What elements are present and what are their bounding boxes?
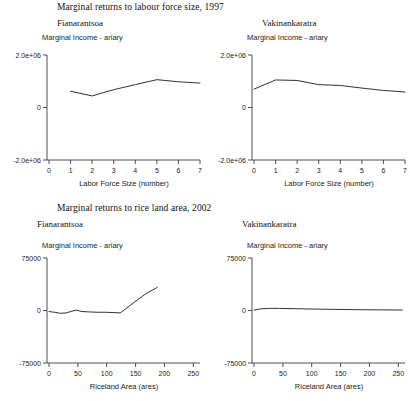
x-tick-marks bbox=[254, 363, 398, 367]
x-tick-marks bbox=[49, 160, 200, 164]
x-tick-label: 250 bbox=[187, 370, 199, 377]
x-tick-label: 7 bbox=[403, 167, 407, 174]
x-tick-label: 4 bbox=[338, 167, 342, 174]
figure-labour-force: Marginal returns to labour force size, 1… bbox=[0, 0, 410, 200]
x-tick-label: 250 bbox=[392, 370, 404, 377]
data-series-line bbox=[71, 80, 200, 96]
panel-fianarantsoa-labour: Fianarantsoa Marginal Income - ariary 2.… bbox=[0, 0, 205, 200]
x-tick-marks bbox=[49, 363, 193, 367]
x-tick-label: 50 bbox=[74, 370, 82, 377]
x-tick-label: 150 bbox=[130, 370, 142, 377]
y-tick-label: 0 bbox=[37, 307, 41, 314]
x-tick-label: 4 bbox=[133, 167, 137, 174]
y-tick-label: 0 bbox=[242, 307, 246, 314]
data-series-line bbox=[254, 80, 405, 92]
x-tick-label: 0 bbox=[252, 167, 256, 174]
x-tick-label: 2 bbox=[90, 167, 94, 174]
x-tick-label: 50 bbox=[279, 370, 287, 377]
data-series-line bbox=[254, 308, 402, 310]
x-tick-label: 0 bbox=[47, 370, 51, 377]
x-tick-label: 1 bbox=[69, 167, 73, 174]
x-axis-title: Riceland Area (ares) bbox=[90, 382, 159, 391]
x-tick-label: 200 bbox=[159, 370, 171, 377]
panel-vakinankaratra-riceland: Vakinankaratra Marginal Income - ariary … bbox=[205, 201, 410, 401]
x-tick-marks bbox=[254, 160, 405, 164]
x-tick-label: 7 bbox=[198, 167, 202, 174]
y-tick-label: 2.0e+06 bbox=[16, 52, 42, 59]
y-tick-label: 2.0e+06 bbox=[221, 52, 247, 59]
x-axis-title: Riceland Area (ares) bbox=[295, 382, 364, 391]
plot-area: 2.0e+06 0 -2.0e+06 0 1 2 3 4 5 6 7 Labor bbox=[0, 0, 205, 200]
panel-fianarantsoa-riceland: Fianarantsoa Marginal Income - ariary 75… bbox=[0, 201, 205, 401]
x-tick-label: 2 bbox=[295, 167, 299, 174]
x-tick-label: 5 bbox=[155, 167, 159, 174]
x-tick-label: 3 bbox=[112, 167, 116, 174]
x-tick-label: 6 bbox=[381, 167, 385, 174]
x-tick-label: 0 bbox=[252, 370, 256, 377]
x-tick-label: 1 bbox=[274, 167, 278, 174]
y-tick-label: -2.0e+06 bbox=[13, 157, 41, 164]
y-tick-label: 75000 bbox=[227, 255, 247, 262]
y-tick-label: -75000 bbox=[19, 360, 41, 367]
plot-area: 75000 0 -75000 0 50 100 150 200 250 Rice… bbox=[205, 201, 410, 401]
y-tick-label: 75000 bbox=[22, 255, 42, 262]
x-tick-label: 150 bbox=[335, 370, 347, 377]
x-tick-label: 200 bbox=[364, 370, 376, 377]
y-tick-label: -2.0e+06 bbox=[218, 157, 246, 164]
plot-area: 2.0e+06 0 -2.0e+06 0 1 2 3 4 5 6 7 Labor… bbox=[205, 0, 410, 200]
x-tick-label: 6 bbox=[176, 167, 180, 174]
x-axis-title: Labor Force Size (number) bbox=[284, 179, 374, 188]
y-tick-label: 0 bbox=[242, 104, 246, 111]
x-tick-label: 100 bbox=[101, 370, 113, 377]
x-axis-title: Labor Force Size (number) bbox=[79, 179, 169, 188]
data-series-line bbox=[49, 287, 157, 313]
plot-area: 75000 0 -75000 0 50 100 150 200 250 Rice… bbox=[0, 201, 205, 401]
y-tick-label: 0 bbox=[37, 104, 41, 111]
y-tick-label: -75000 bbox=[224, 360, 246, 367]
x-tick-label: 3 bbox=[317, 167, 321, 174]
x-tick-label: 0 bbox=[47, 167, 51, 174]
panel-vakinankaratra-labour: Vakinankaratra Marginal Income - ariary … bbox=[205, 0, 410, 200]
x-tick-label: 100 bbox=[306, 370, 318, 377]
x-tick-label: 5 bbox=[360, 167, 364, 174]
figure-riceland-area: Marginal returns to rice land area, 2002… bbox=[0, 201, 410, 401]
